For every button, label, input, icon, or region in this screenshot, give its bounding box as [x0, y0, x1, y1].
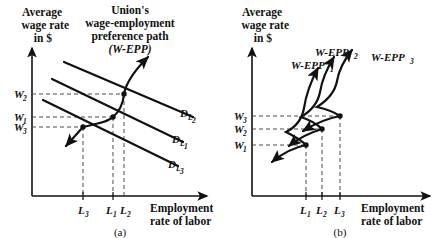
svg-text:L: L [119, 204, 127, 216]
svg-text:W-EPP: W-EPP [291, 59, 325, 71]
svg-text:2: 2 [22, 94, 27, 103]
panel-a-curve-label-dl1: D L 1 [171, 133, 188, 151]
panel-a-equilibrium-dot-l2 [121, 91, 126, 96]
panel-a-curve-label-dl3: D L 3 [167, 158, 184, 176]
svg-text:1: 1 [184, 142, 188, 151]
panel-b: Average wage rate in $ W 3 W 2 [234, 6, 430, 238]
svg-text:1: 1 [307, 210, 311, 219]
panel-a-x-axis-label-line1: Employment [150, 202, 213, 215]
panel-b-equilibrium-dot-1 [303, 142, 308, 147]
panel-a-x-axis-label-line2: rate of labor [150, 215, 211, 227]
panel-b-ytick-w2: W 2 [234, 123, 247, 138]
panel-b-x-axis-label-line1: Employment [361, 202, 424, 215]
panel-a-caption: (a) [114, 226, 127, 238]
panel-a-title-line4: (W-EPP) [108, 43, 151, 56]
svg-text:2: 2 [126, 210, 131, 219]
panel-a-equilibrium-dot-l3 [80, 124, 85, 129]
panel-a-y-axis-label-line1: Average [22, 6, 62, 19]
svg-text:3: 3 [409, 57, 414, 66]
svg-text:D: D [167, 158, 176, 170]
svg-text:D: D [171, 133, 180, 145]
panel-b-x-axis-label-line2: rate of labor [361, 215, 422, 227]
svg-text:1: 1 [330, 65, 334, 74]
svg-text:2: 2 [322, 210, 327, 219]
svg-text:D: D [179, 107, 188, 119]
panel-a-y-axis-label-line3: in $ [34, 32, 52, 44]
svg-text:3: 3 [22, 127, 27, 136]
panel-b-y-axis-label-line1: Average [242, 6, 282, 19]
panel-b-xtick-l1: L 1 [299, 204, 311, 219]
svg-text:2: 2 [191, 116, 196, 125]
panel-b-curve-wepp1-tail [272, 145, 306, 162]
svg-text:1: 1 [113, 210, 117, 219]
svg-text:W-EPP: W-EPP [371, 51, 405, 63]
economics-figure: Average wage rate in $ Union's wage-empl… [0, 0, 441, 238]
panel-b-curve-label-wepp3: W-EPP 3 [371, 51, 414, 66]
svg-text:3: 3 [179, 167, 184, 176]
svg-text:L: L [299, 204, 307, 216]
panel-a-title-line3: preference path [91, 30, 169, 43]
panel-a-ytick-w2: W 2 [14, 88, 27, 103]
panel-b-xtick-l3: L 3 [333, 204, 345, 219]
svg-text:2: 2 [242, 129, 247, 138]
panel-a-title-line1: Union's [111, 4, 149, 16]
panel-a-equilibrium-dot-l1 [110, 114, 115, 119]
panel-a-xtick-l1: L 1 [105, 204, 117, 219]
panel-b-equilibrium-dot-3 [337, 113, 342, 118]
panel-b-ytick-w1: W 1 [234, 139, 247, 154]
svg-text:2: 2 [353, 52, 358, 61]
panel-a-xtick-l3: L 3 [77, 204, 89, 219]
panel-a: Average wage rate in $ Union's wage-empl… [14, 4, 213, 238]
svg-text:L: L [315, 204, 323, 216]
svg-text:3: 3 [340, 210, 345, 219]
panel-b-caption: (b) [334, 226, 347, 238]
panel-a-curve-demand-l2 [64, 62, 193, 117]
panel-a-y-axis-label-line2: wage rate [21, 19, 69, 32]
svg-text:L: L [333, 204, 341, 216]
panel-b-y-axis-label-line2: wage rate [241, 19, 289, 32]
panel-b-equilibrium-dot-2 [319, 126, 324, 131]
svg-text:W-EPP: W-EPP [315, 46, 349, 58]
panel-a-xtick-l2: L 2 [119, 204, 131, 219]
panel-a-curve-label-dl2: D L 2 [179, 107, 196, 125]
svg-text:1: 1 [243, 145, 247, 154]
panel-b-xtick-l2: L 2 [315, 204, 327, 219]
svg-text:L: L [77, 204, 85, 216]
svg-text:L: L [105, 204, 113, 216]
panel-b-y-axis-label-line3: in $ [254, 32, 272, 44]
panel-a-title-line2: wage-employment [85, 17, 175, 30]
svg-text:3: 3 [84, 210, 89, 219]
panel-a-wepp-lower-arrow [66, 127, 83, 146]
panel-a-curve-demand-l3 [43, 100, 178, 166]
